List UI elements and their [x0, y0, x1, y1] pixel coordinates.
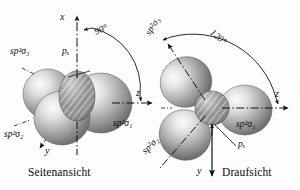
right-z-axis-label: z: [275, 89, 279, 99]
right-px-label: pₓ: [238, 140, 245, 150]
left-panel-graphics: [14, 16, 152, 155]
left-orbital-lobes: [23, 69, 132, 145]
right-panel-graphics: [150, 34, 288, 176]
right-sp2sigma1-label: sp²σ₁: [236, 120, 255, 130]
left-x-axis-label: x: [60, 12, 64, 22]
left-sp2sigma2-label: sp²σ₂: [4, 130, 23, 140]
left-sp2sigma1-label: sp²σ₁: [113, 119, 132, 129]
left-sp2sigma3-label: sp²σ₃: [10, 47, 29, 57]
right-panel-caption: Draufsicht: [222, 167, 272, 179]
left-px-label: pₓ: [62, 47, 69, 57]
left-z-axis-label: z: [136, 88, 140, 98]
left-y-axis-label: y: [45, 146, 49, 156]
right-y-axis-label: y: [197, 166, 201, 176]
left-panel-caption: Seitenansicht: [28, 167, 91, 179]
orbital-diagram-figure: x z y 90° sp²σ₃ pₓ sp²σ₁ sp²σ₂ Seitenans…: [0, 0, 300, 190]
